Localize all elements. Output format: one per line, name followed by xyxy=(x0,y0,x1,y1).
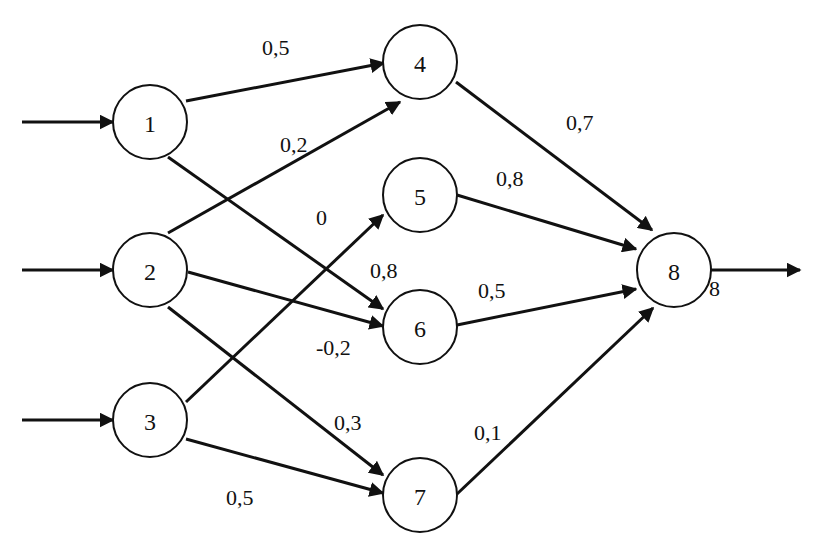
node-3: 3 xyxy=(113,383,187,457)
edge-1-6 xyxy=(168,157,383,309)
node-4-label: 4 xyxy=(414,51,426,77)
neural-network-diagram: 1 2 3 4 5 6 7 8 0,5 0,2 0 0,8 -0,2 0,3 0… xyxy=(0,0,817,552)
weight-label-1-6: 0,8 xyxy=(370,258,398,283)
node-6: 6 xyxy=(383,290,457,364)
weight-label-2-7: 0,3 xyxy=(334,410,362,435)
node-5-label: 5 xyxy=(414,184,426,210)
node-1-label: 1 xyxy=(144,111,156,137)
weight-label-7-8: 0,1 xyxy=(474,420,502,445)
edge-3-7 xyxy=(186,439,383,493)
weight-label-6-8: 0,5 xyxy=(478,278,506,303)
weight-label-3-5: 0 xyxy=(316,205,327,230)
edge-2-6 xyxy=(188,272,383,326)
node-5: 5 xyxy=(383,158,457,232)
weight-label-4-8: 0,7 xyxy=(566,110,594,135)
node-1: 1 xyxy=(113,85,187,159)
node-8-label: 8 xyxy=(668,259,680,285)
edge-1-4 xyxy=(186,63,384,101)
weight-label-2-6: -0,2 xyxy=(316,335,351,360)
node-7-label: 7 xyxy=(414,484,426,510)
edge-2-7 xyxy=(168,307,383,475)
output-label: 8 xyxy=(709,276,720,301)
edge-3-5 xyxy=(186,215,383,402)
node-6-label: 6 xyxy=(414,316,426,342)
edge-7-8 xyxy=(457,308,653,494)
node-2-label: 2 xyxy=(144,259,156,285)
weight-label-3-7: 0,5 xyxy=(226,485,254,510)
node-2: 2 xyxy=(113,233,187,307)
weight-label-1-4: 0,5 xyxy=(262,35,290,60)
weight-label-5-8: 0,8 xyxy=(496,166,524,191)
edge-2-4 xyxy=(168,102,400,233)
edge-4-8 xyxy=(456,82,652,230)
node-4: 4 xyxy=(383,25,457,99)
node-7: 7 xyxy=(383,458,457,532)
node-3-label: 3 xyxy=(144,409,156,435)
weight-label-2-4: 0,2 xyxy=(280,132,308,157)
edge-5-8 xyxy=(457,195,636,249)
node-8: 8 xyxy=(637,233,711,307)
